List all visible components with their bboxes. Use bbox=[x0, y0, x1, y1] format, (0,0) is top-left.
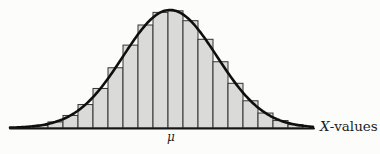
histogram-normal-curve-plot: μ X-values bbox=[0, 0, 380, 154]
normal-distribution-figure: μ X-values bbox=[0, 0, 380, 154]
histogram-bar bbox=[153, 12, 168, 128]
histogram-bar bbox=[183, 21, 198, 128]
histogram-bar bbox=[168, 11, 183, 128]
histogram-bar bbox=[138, 25, 153, 128]
mu-label: μ bbox=[167, 130, 175, 144]
x-values-label-suffix: -values bbox=[330, 118, 378, 134]
histogram-bar bbox=[198, 39, 213, 128]
mu-label-text: μ bbox=[167, 130, 175, 144]
histogram-bar bbox=[123, 45, 138, 128]
x-values-label: X-values bbox=[319, 118, 378, 134]
